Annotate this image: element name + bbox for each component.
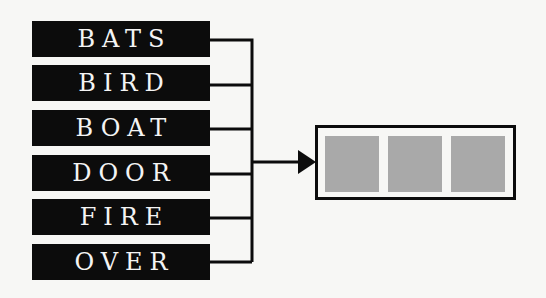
arrow-head-icon <box>298 150 316 174</box>
slot-3 <box>451 136 505 192</box>
target-slots-container <box>315 125 516 200</box>
slot-1 <box>325 136 379 192</box>
slot-2 <box>388 136 442 192</box>
